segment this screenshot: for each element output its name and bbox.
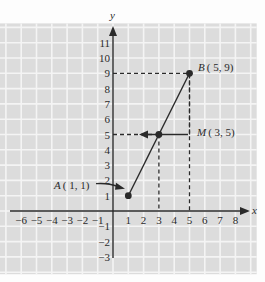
x-tick-label: 8 bbox=[233, 214, 239, 226]
y-tick-label: 3 bbox=[105, 159, 111, 171]
x-tick-label: 5 bbox=[187, 214, 193, 226]
x-axis-label: x bbox=[251, 204, 257, 216]
x-tick-label: −4 bbox=[46, 214, 58, 226]
y-tick-label: 1 bbox=[105, 190, 111, 202]
x-tick-label: 6 bbox=[202, 214, 208, 226]
x-tick-label: 7 bbox=[217, 214, 223, 226]
point-a bbox=[125, 192, 132, 199]
y-tick-label: 10 bbox=[99, 52, 111, 64]
y-tick-label: 4 bbox=[105, 144, 111, 156]
x-tick-label: 1 bbox=[126, 214, 132, 226]
x-tick-label: 2 bbox=[141, 214, 147, 226]
y-axis-label: y bbox=[109, 9, 115, 21]
y-tick-label: −3 bbox=[98, 251, 110, 263]
x-tick-label: 3 bbox=[156, 214, 162, 226]
x-tick-label: −6 bbox=[15, 214, 27, 226]
y-tick-label: 9 bbox=[105, 67, 111, 79]
y-tick-label: −2 bbox=[98, 236, 110, 248]
x-tick-label: 4 bbox=[171, 214, 177, 226]
x-tick-label: −5 bbox=[31, 214, 43, 226]
x-tick-label: −2 bbox=[77, 214, 89, 226]
point-a-label: A( 1, 1) bbox=[53, 179, 90, 192]
y-tick-label: 8 bbox=[105, 83, 111, 95]
coordinate-plane-figure: −6−5−4−3−2−112345678−3−2−11234567891011 … bbox=[0, 0, 265, 282]
y-tick-label: 7 bbox=[105, 98, 111, 110]
point-m-label: M( 3, 5) bbox=[196, 126, 235, 139]
y-tick-label: 5 bbox=[105, 129, 111, 141]
coordinate-plane: −6−5−4−3−2−112345678−3−2−11234567891011 … bbox=[0, 0, 265, 282]
point-b bbox=[186, 70, 193, 77]
point-b-label: B( 5, 9) bbox=[198, 61, 234, 74]
y-tick-label: 6 bbox=[105, 113, 111, 125]
y-tick-label: 11 bbox=[99, 37, 110, 49]
y-tick-label: −1 bbox=[98, 220, 110, 232]
x-tick-label: −3 bbox=[61, 214, 73, 226]
